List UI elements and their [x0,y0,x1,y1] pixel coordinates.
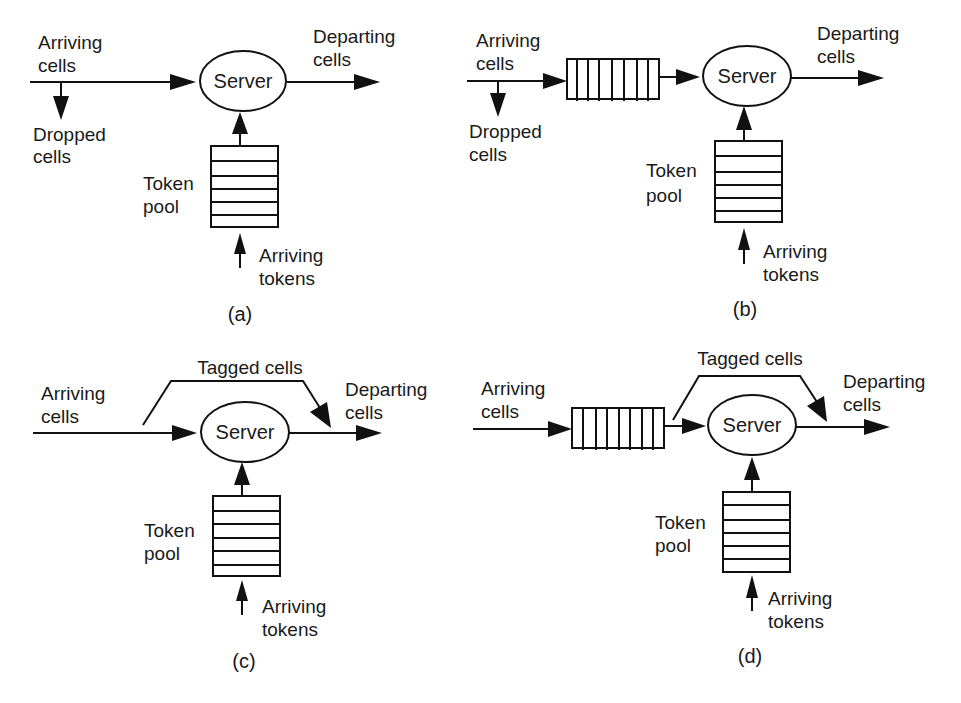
arrow-head-icon [310,402,331,428]
arrow-head-icon [170,74,196,90]
server-label: Server [723,414,782,436]
arriving-cells-label-line1: Arriving [476,30,540,51]
arriving-cells-label-line1: Arriving [41,383,105,404]
arriving-tokens-label-line1: Arriving [763,241,827,262]
departing-cells-label-line1: Departing [843,371,925,392]
panel-a: Arriving cells Dropped cells Server Depa… [30,26,395,325]
departing-cells-label-line1: Departing [817,23,899,44]
arrow-up-icon [738,228,750,250]
arrow-down-icon [490,93,506,117]
cell-queue-buffer [567,59,659,101]
server-label: Server [214,70,273,92]
arrow-head-icon [543,73,567,89]
arrow-up-icon [236,580,248,601]
tagged-cells-label: Tagged cells [697,348,803,369]
arrow-up-icon [746,575,758,598]
arriving-cells-label-line2: cells [481,401,519,422]
arriving-tokens-label-line2: tokens [259,268,315,289]
token-pool-label-line1: Token [655,512,706,533]
departing-cells-label-line2: cells [817,46,855,67]
token-pool-buffer [213,496,280,576]
tagged-cells-label: Tagged cells [197,357,303,378]
panel-c: Arriving cells Tagged cells Server Depar… [33,357,427,672]
arriving-tokens-label-line2: tokens [262,619,318,640]
arrow-head-icon [548,421,572,437]
dropped-cells-label-line1: Dropped [469,121,542,142]
departing-cells-label-line1: Departing [313,26,395,47]
arrow-up-icon [736,106,752,130]
server-label: Server [718,65,777,87]
departing-cells-label-line1: Departing [345,379,427,400]
token-pool-label-line1: Token [646,160,697,181]
panel-caption: (b) [733,298,757,320]
arriving-tokens-label-line1: Arriving [259,245,323,266]
arriving-tokens-label-line2: tokens [763,264,819,285]
panel-d: Arriving cells Tagged cells Server Depar… [473,348,925,667]
token-pool-label-line2: pool [646,185,682,206]
arrow-up-icon [234,462,250,485]
departing-cells-label-line2: cells [313,49,351,70]
panel-b: Arriving cells Dropped cells Server Depa… [467,23,899,320]
arriving-tokens-label-line1: Arriving [768,588,832,609]
arriving-cells-label-line2: cells [38,55,76,76]
arrow-head-icon [807,396,827,422]
departing-cells-label-line2: cells [345,402,383,423]
arrow-down-icon [53,96,69,120]
dropped-cells-label-line2: cells [469,144,507,165]
arrow-head-icon [356,425,382,441]
token-pool-label-line2: pool [655,535,691,556]
arriving-cells-label-line2: cells [41,406,79,427]
arrow-up-icon [744,457,760,480]
token-pool-buffer [211,146,278,227]
token-pool-label-line2: pool [143,196,179,217]
arriving-cells-label-line1: Arriving [38,32,102,53]
arrow-head-icon [172,425,197,441]
arrow-up-icon [234,233,246,254]
leaky-bucket-diagrams: Arriving cells Dropped cells Server Depa… [0,0,961,703]
token-pool-buffer [715,141,782,222]
arriving-tokens-label-line2: tokens [768,611,824,632]
arrow-up-icon [232,112,248,134]
token-pool-label-line1: Token [143,173,194,194]
cell-queue-buffer [572,408,664,450]
departing-cells-label-line2: cells [843,394,881,415]
server-label: Server [216,421,275,443]
arriving-cells-label-line1: Arriving [481,378,545,399]
arrow-head-icon [676,69,700,85]
arriving-cells-label-line2: cells [476,53,514,74]
token-pool-label-line2: pool [144,543,180,564]
arrow-head-icon [864,419,890,435]
token-pool-buffer [723,492,790,572]
panel-caption: (c) [232,650,255,672]
dropped-cells-label-line1: Dropped [33,124,106,145]
arriving-tokens-label-line1: Arriving [262,596,326,617]
token-pool-label-line1: Token [144,520,195,541]
arrow-head-icon [682,418,706,434]
arrow-head-icon [858,70,884,86]
dropped-cells-label-line2: cells [33,146,71,167]
panel-caption: (d) [738,645,762,667]
arrow-head-icon [354,74,380,90]
panel-caption: (a) [228,303,252,325]
